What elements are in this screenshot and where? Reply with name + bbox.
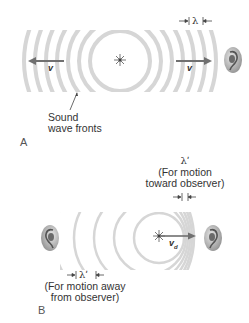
panel-b-toward-symbol: λʹ [175, 155, 195, 166]
panel-a-left-velocity-label: v [48, 63, 53, 73]
panel-b-velocity-label: vd [169, 238, 178, 250]
wavefront-caption-line2: wave fronts [48, 123, 102, 134]
panel-b-left-ear-icon [41, 225, 59, 251]
panel-b-toward-caption-line2: toward observer) [140, 178, 230, 189]
panel-a-label: A [20, 137, 27, 148]
panel-a-ear-icon [224, 47, 242, 73]
doppler-diagram [0, 0, 249, 323]
panel-a-sound-source-icon [114, 54, 126, 66]
panel-b-label: B [38, 305, 45, 316]
panel-a-wavefronts [2, 0, 238, 179]
panel-b-away-caption-line2: from observer) [35, 292, 135, 303]
panel-a-wavelength-symbol: λ [192, 15, 198, 26]
panel-b-toward-wavelength-marker [173, 193, 196, 201]
panel-a-right-velocity-label: v [187, 63, 192, 73]
panel-b-away-symbol: λʹ [79, 269, 88, 280]
velocity-subscript: d [174, 244, 178, 250]
panel-b-right-ear-icon [204, 225, 222, 251]
